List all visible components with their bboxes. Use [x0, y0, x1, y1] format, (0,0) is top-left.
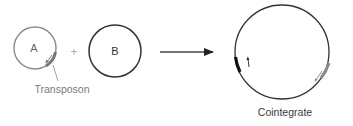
plasmid-a-label: A [30, 42, 37, 54]
transposon-copy-2 [321, 63, 329, 78]
transposon-leader-line [53, 65, 58, 81]
plasmid-b-label: B [111, 45, 118, 57]
transposon-copy-1 [236, 57, 241, 72]
cointegrate [235, 5, 329, 99]
cointegrate-circle [235, 5, 329, 99]
plasmid-a [14, 27, 58, 81]
transposon-segment-a [46, 52, 56, 66]
plus-sign: + [70, 45, 77, 59]
cointegrate-label: Cointegrate [258, 106, 312, 118]
transposon-copy-1-arrow-icon [246, 57, 249, 68]
transposon-label: Transposon [34, 83, 89, 95]
